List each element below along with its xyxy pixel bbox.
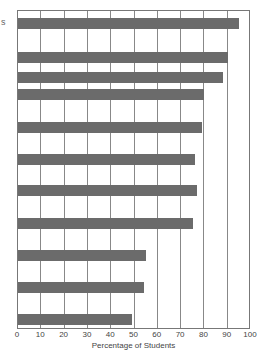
x-tick-label: 50 [129,330,138,339]
bar [18,185,197,196]
bar [18,52,228,63]
x-tick-label: 60 [152,330,161,339]
x-tick-label: 40 [106,330,115,339]
bar [18,250,146,261]
bar [18,314,132,325]
bar [18,282,144,293]
bar [18,72,223,83]
x-tick-label: 30 [82,330,91,339]
x-tick-label: 20 [59,330,68,339]
bar [18,89,204,100]
x-tick-label: 90 [222,330,231,339]
plot-area [17,10,250,329]
x-axis-label: Percentage of Students [17,341,250,350]
bar [18,218,193,229]
x-tick-label: 80 [199,330,208,339]
truncated-category-label: s [1,17,6,27]
x-tick-label: 100 [243,330,256,339]
x-tick-label: 10 [36,330,45,339]
bar [18,122,202,133]
x-tick-label: 0 [15,330,19,339]
x-tick-label: 70 [176,330,185,339]
bar [18,18,239,29]
bar [18,154,195,165]
